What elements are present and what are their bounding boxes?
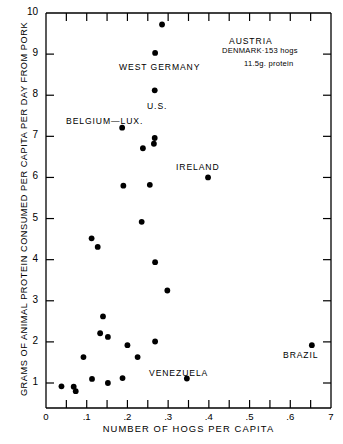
data-point[interactable]: [97, 330, 103, 336]
y-tick-label: 4: [22, 253, 38, 264]
data-point[interactable]: [152, 339, 158, 345]
y-tick-label: 2: [22, 335, 38, 346]
data-point[interactable]: [152, 259, 158, 265]
data-point[interactable]: [140, 145, 146, 151]
data-point[interactable]: [120, 375, 126, 381]
data-point[interactable]: [105, 380, 111, 386]
data-point[interactable]: [73, 388, 79, 394]
y-tick-label: 10: [22, 6, 38, 17]
data-point[interactable]: [205, 175, 211, 181]
data-point[interactable]: [152, 135, 158, 141]
y-tick-label: 7: [22, 129, 38, 140]
annotation-venezuela: VENEZUELA: [149, 368, 208, 378]
data-point[interactable]: [95, 244, 101, 250]
x-tick-label: .5: [241, 411, 259, 422]
annotation-west-germany: WEST GERMANY: [119, 62, 200, 72]
data-point[interactable]: [139, 219, 145, 225]
annotation-brazil: BRAZIL: [283, 350, 319, 360]
x-tick-label: .2: [118, 411, 136, 422]
data-point[interactable]: [89, 376, 95, 382]
x-tick-label: 0: [37, 411, 55, 422]
data-point[interactable]: [120, 183, 126, 189]
annotation-belgium-lux: BELGIUM—LUX.: [66, 116, 143, 126]
data-point[interactable]: [100, 314, 106, 320]
annotation-ireland: IRELAND: [176, 162, 220, 172]
data-point[interactable]: [152, 50, 158, 56]
x-tick-label: .4: [200, 411, 218, 422]
y-tick-label: 5: [22, 212, 38, 223]
data-point[interactable]: [159, 22, 165, 28]
data-point[interactable]: [309, 342, 315, 348]
x-axis-title: NUMBER OF HOGS PER CAPITA: [46, 423, 331, 434]
x-tick-label: 7: [322, 411, 340, 422]
data-point[interactable]: [59, 383, 65, 389]
data-point[interactable]: [125, 342, 131, 348]
data-point[interactable]: [135, 354, 141, 360]
y-tick-label: 6: [22, 170, 38, 181]
y-axis-title: GRAMS OF ANIMAL PROTEIN CONSUMED PER CAP…: [19, 9, 29, 409]
annotation-denmark-hogs: DENMARK·153 hogs: [222, 46, 298, 55]
annotation-austria: AUSTRIA: [229, 36, 273, 46]
x-tick-label: .1: [78, 411, 96, 422]
x-tick-label: .6: [281, 411, 299, 422]
annotation-denmark-protein: 11.5g. protein: [244, 59, 293, 68]
data-point[interactable]: [152, 87, 158, 93]
y-tick-label: 3: [22, 294, 38, 305]
y-tick-label: 1: [22, 376, 38, 387]
data-point[interactable]: [147, 182, 153, 188]
annotation-us: U.S.: [147, 101, 167, 111]
data-point[interactable]: [105, 334, 111, 340]
y-tick-label: 9: [22, 47, 38, 58]
y-tick-label: 8: [22, 88, 38, 99]
x-tick-label: .3: [159, 411, 177, 422]
data-point[interactable]: [164, 288, 170, 294]
data-point[interactable]: [81, 354, 87, 360]
data-point[interactable]: [151, 141, 157, 147]
data-point[interactable]: [89, 235, 95, 241]
